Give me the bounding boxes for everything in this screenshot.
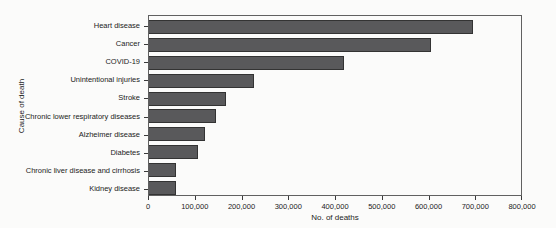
x-tick-mark — [195, 196, 196, 200]
category-row: Stroke — [0, 87, 140, 105]
x-tick-mark — [429, 196, 430, 200]
bar-stroke — [149, 92, 226, 106]
bar-chronic-liver-disease-and-cirrhosis — [149, 163, 176, 177]
x-axis-title: No. of deaths — [148, 213, 522, 222]
x-tick-mark — [521, 196, 522, 200]
bar-row — [149, 123, 521, 141]
x-axis-ticks — [148, 196, 522, 200]
category-label-cancer: Cancer — [0, 40, 140, 48]
x-tick-label-0: 0 — [146, 202, 150, 211]
category-label-kidney-disease: Kidney disease — [0, 185, 140, 193]
x-tick-label-100-000: 100,000 — [181, 202, 208, 211]
x-tick-label-200-000: 200,000 — [228, 202, 255, 211]
bar-covid-19 — [149, 56, 344, 70]
x-tick-mark — [242, 196, 243, 200]
x-tick-mark — [148, 196, 149, 200]
x-tick-label-600-000: 600,000 — [415, 202, 442, 211]
bar-alzheimer-disease — [149, 127, 205, 141]
x-tick-mark — [288, 196, 289, 200]
bar-cancer — [149, 38, 431, 52]
x-tick-label-700-000: 700,000 — [462, 202, 489, 211]
bar-row — [149, 106, 521, 124]
bar-row — [149, 52, 521, 70]
category-label-unintentional-injuries: Unintentional injuries — [0, 76, 140, 84]
bar-row — [149, 34, 521, 52]
category-label-diabetes: Diabetes — [0, 149, 140, 157]
x-tick-label-300-000: 300,000 — [275, 202, 302, 211]
category-row: COVID-19 — [0, 51, 140, 69]
category-row: Alzheimer disease — [0, 124, 140, 142]
x-tick-label-500-000: 500,000 — [368, 202, 395, 211]
bars-container — [149, 16, 521, 195]
category-label-chronic-liver-disease-and-cirrhosis: Chronic liver disease and cirrhosis — [0, 167, 140, 175]
category-row: Chronic lower respiratory diseases — [0, 105, 140, 123]
category-row: Unintentional injuries — [0, 69, 140, 87]
x-tick-mark — [335, 196, 336, 200]
category-label-stroke: Stroke — [0, 94, 140, 102]
bar-unintentional-injuries — [149, 74, 254, 88]
bar-diabetes — [149, 145, 198, 159]
category-label-covid-19: COVID-19 — [0, 58, 140, 66]
bar-heart-disease — [149, 20, 473, 34]
bar-row — [149, 141, 521, 159]
x-axis-tick-labels: 0100,000200,000300,000400,000500,000600,… — [148, 202, 522, 211]
plot-area — [148, 15, 522, 196]
category-row: Cancer — [0, 33, 140, 51]
bar-row — [149, 88, 521, 106]
bar-chart-figure: Cause of death Heart diseaseCancerCOVID-… — [0, 0, 556, 228]
category-row: Chronic liver disease and cirrhosis — [0, 160, 140, 178]
bar-row — [149, 177, 521, 195]
bar-chronic-lower-respiratory-diseases — [149, 109, 216, 123]
category-label-heart-disease: Heart disease — [0, 22, 140, 30]
bar-kidney-disease — [149, 181, 176, 195]
bar-row — [149, 70, 521, 88]
x-tick-mark — [475, 196, 476, 200]
category-label-alzheimer-disease: Alzheimer disease — [0, 131, 140, 139]
category-row: Kidney disease — [0, 178, 140, 196]
y-axis-category-labels: Heart diseaseCancerCOVID-19Unintentional… — [0, 15, 140, 196]
category-row: Heart disease — [0, 15, 140, 33]
x-tick-label-400-000: 400,000 — [321, 202, 348, 211]
bar-row — [149, 159, 521, 177]
bar-row — [149, 16, 521, 34]
x-tick-mark — [382, 196, 383, 200]
category-row: Diabetes — [0, 142, 140, 160]
x-tick-label-800-000: 800,000 — [508, 202, 535, 211]
category-label-chronic-lower-respiratory-diseases: Chronic lower respiratory diseases — [0, 113, 140, 121]
